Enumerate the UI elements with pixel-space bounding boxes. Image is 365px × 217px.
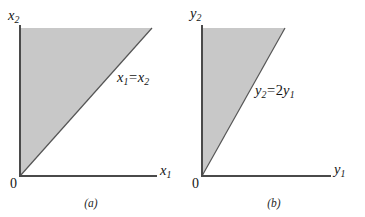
x-axis-label-a: x1	[160, 163, 171, 180]
boundary-equation-b-lhs-sub: 2	[262, 89, 267, 100]
panel-b: y2 y1 0 y2=2y1 (b)	[183, 0, 365, 217]
panel-caption-a: (a)	[0, 198, 182, 210]
y-axis-label-b-sub: 2	[197, 12, 202, 23]
boundary-equation-b: y2=2y1	[255, 83, 295, 100]
boundary-equation-a-lhs-sub: 1	[124, 76, 129, 87]
y-axis-label-a-sub: 2	[15, 14, 20, 25]
origin-label-b: 0	[192, 177, 199, 191]
boundary-equation-b-operator: =	[267, 82, 275, 98]
boundary-equation-b-rhs-sub: 1	[290, 89, 295, 100]
panel-a-plot	[0, 0, 182, 200]
boundary-equation-a-operator: =	[129, 69, 137, 85]
boundary-equation-a: x1=x2	[117, 70, 149, 87]
boundary-equation-b-coef: 2	[276, 82, 283, 98]
boundary-equation-a-rhs-sub: 2	[144, 76, 149, 87]
origin-label-a: 0	[10, 177, 17, 191]
x-axis-label-a-sub: 1	[167, 169, 172, 180]
panel-caption-b: (b)	[183, 198, 365, 210]
y-axis-label-a: x2	[8, 8, 19, 25]
panel-a: x2 x1 0 x1=x2 (a)	[0, 0, 182, 217]
y-axis-label-b: y2	[190, 6, 201, 23]
x-axis-label-b: y1	[334, 162, 345, 179]
figure-root: x2 x1 0 x1=x2 (a) y2	[0, 0, 365, 217]
x-axis-label-b-sub: 1	[341, 168, 346, 179]
